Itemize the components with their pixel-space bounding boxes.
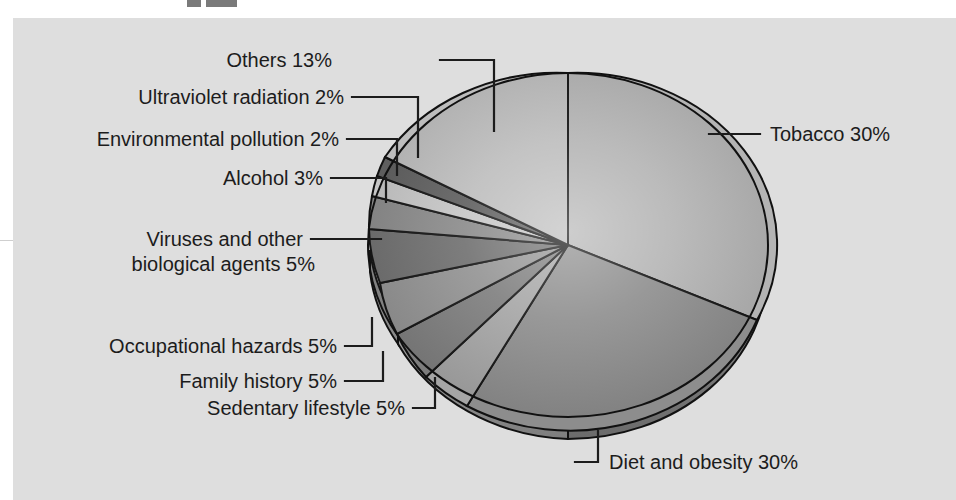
label-sedentary-lifestyle: Sedentary lifestyle 5% [207, 396, 405, 421]
label-alcohol: Alcohol 3% [223, 166, 323, 191]
label-family-history: Family history 5% [179, 369, 337, 394]
label-tobacco: Tobacco 30% [770, 122, 890, 147]
label-ultraviolet-radiation: Ultraviolet radiation 2% [138, 85, 344, 110]
label-viruses-line1: Viruses and other [147, 227, 303, 252]
label-environmental-pollution: Environmental pollution 2% [97, 127, 339, 152]
pie-chart-3d [0, 0, 956, 500]
label-occupational-hazards: Occupational hazards 5% [109, 334, 337, 359]
pie-face-sheen [369, 74, 767, 416]
leader-family-history [345, 352, 383, 381]
label-others: Others 13% [226, 48, 332, 73]
label-diet-and-obesity: Diet and obesity 30% [609, 450, 798, 475]
leader-occupational-hazards [345, 318, 372, 346]
label-viruses-line2: biological agents 5% [132, 252, 315, 277]
figure-container: Others 13% Ultraviolet radiation 2% Envi… [0, 0, 956, 500]
